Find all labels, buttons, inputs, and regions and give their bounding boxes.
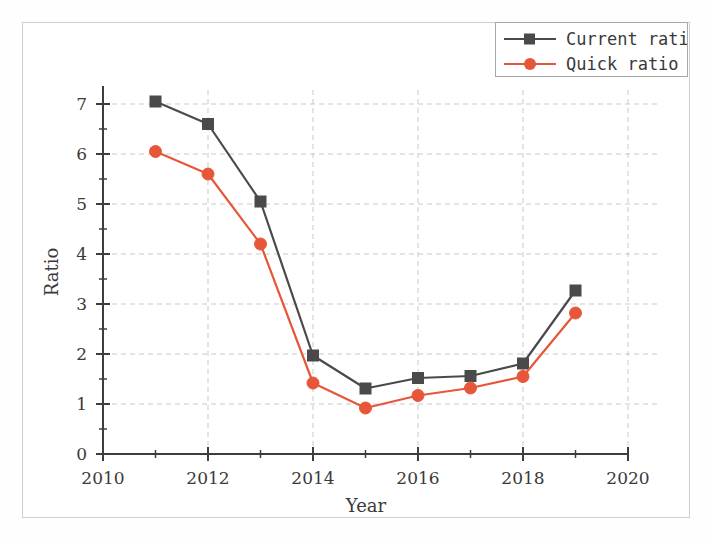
data-point-square-marker bbox=[518, 358, 529, 369]
legend-content: Current ratioQuick ratio bbox=[496, 23, 687, 76]
data-point-square-marker bbox=[413, 373, 424, 384]
legend-items-group: Current ratioQuick ratio bbox=[504, 29, 687, 74]
data-point-circle-marker bbox=[150, 146, 162, 158]
data-point-square-marker bbox=[255, 196, 266, 207]
data-point-circle-marker bbox=[517, 371, 529, 383]
x-axis-title: Year bbox=[345, 495, 387, 516]
y-tick-label: 3 bbox=[76, 294, 87, 314]
series-quick-ratio bbox=[150, 146, 582, 415]
x-tick-label: 2012 bbox=[186, 468, 229, 488]
y-tick-label: 1 bbox=[76, 394, 87, 414]
x-axis-tick-labels: 201020122014201620182020 bbox=[81, 468, 649, 488]
x-tick-label: 2010 bbox=[81, 468, 124, 488]
y-axis-tick-labels: 01234567 bbox=[76, 94, 87, 464]
legend-item-quick-ratio[interactable]: Quick ratio bbox=[504, 54, 679, 74]
x-tick-label: 2020 bbox=[606, 468, 649, 488]
data-point-circle-marker bbox=[202, 168, 214, 180]
series-line bbox=[156, 152, 576, 409]
data-point-square-marker bbox=[203, 119, 214, 130]
data-point-circle-marker bbox=[412, 390, 424, 402]
y-tick-label: 6 bbox=[76, 144, 87, 164]
data-point-circle-marker bbox=[255, 238, 267, 250]
y-tick-label: 7 bbox=[76, 94, 87, 114]
legend-item-current-ratio[interactable]: Current ratio bbox=[504, 29, 687, 49]
gridlines-group bbox=[103, 90, 660, 454]
y-tick-label: 4 bbox=[76, 244, 87, 264]
data-point-circle-marker bbox=[360, 402, 372, 414]
legend-square-marker-icon bbox=[524, 34, 535, 45]
chart-legend: Current ratioQuick ratio bbox=[495, 22, 688, 77]
data-point-square-marker bbox=[360, 383, 371, 394]
x-tick-label: 2014 bbox=[291, 468, 334, 488]
legend-label: Current ratio bbox=[566, 29, 687, 49]
data-point-circle-marker bbox=[465, 382, 477, 394]
legend-label: Quick ratio bbox=[566, 54, 679, 74]
y-tick-label: 5 bbox=[76, 194, 87, 214]
y-tick-label: 2 bbox=[76, 344, 87, 364]
series-current-ratio bbox=[150, 96, 581, 394]
data-point-circle-marker bbox=[307, 377, 319, 389]
axis-group bbox=[103, 86, 628, 454]
data-point-circle-marker bbox=[570, 307, 582, 319]
series-line bbox=[156, 102, 576, 389]
data-point-square-marker bbox=[308, 350, 319, 361]
x-tick-label: 2018 bbox=[501, 468, 544, 488]
data-series-group bbox=[150, 96, 582, 414]
data-point-square-marker bbox=[570, 285, 581, 296]
y-tick-label: 0 bbox=[76, 444, 87, 464]
data-point-square-marker bbox=[465, 371, 476, 382]
y-axis-title: Ratio bbox=[41, 248, 62, 297]
line-chart: 01234567 201020122014201620182020 Ratio … bbox=[0, 0, 711, 542]
data-point-square-marker bbox=[150, 96, 161, 107]
x-tick-label: 2016 bbox=[396, 468, 439, 488]
legend-circle-marker-icon bbox=[524, 58, 536, 70]
figure-canvas: 01234567 201020122014201620182020 Ratio … bbox=[0, 0, 711, 542]
